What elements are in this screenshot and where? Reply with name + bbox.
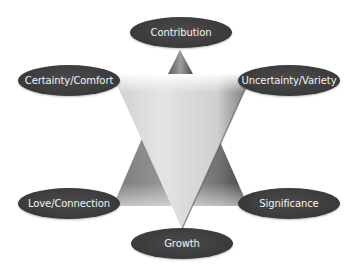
- node-label-significance: Significance: [259, 198, 318, 209]
- node-label-love-connection: Love/Connection: [28, 198, 110, 209]
- node-growth: Growth: [131, 228, 233, 259]
- needs-diagram: Contribution Certainty/Comfort Uncertain…: [0, 0, 356, 275]
- node-certainty-comfort: Certainty/Comfort: [18, 65, 120, 96]
- node-label-contribution: Contribution: [151, 27, 212, 38]
- node-label-growth: Growth: [164, 238, 200, 249]
- node-contribution: Contribution: [130, 17, 232, 48]
- node-significance: Significance: [238, 188, 340, 219]
- node-label-certainty-comfort: Certainty/Comfort: [25, 75, 113, 86]
- node-label-uncertainty-variety: Uncertainty/Variety: [242, 75, 337, 86]
- node-uncertainty-variety: Uncertainty/Variety: [238, 65, 340, 96]
- node-love-connection: Love/Connection: [18, 188, 120, 219]
